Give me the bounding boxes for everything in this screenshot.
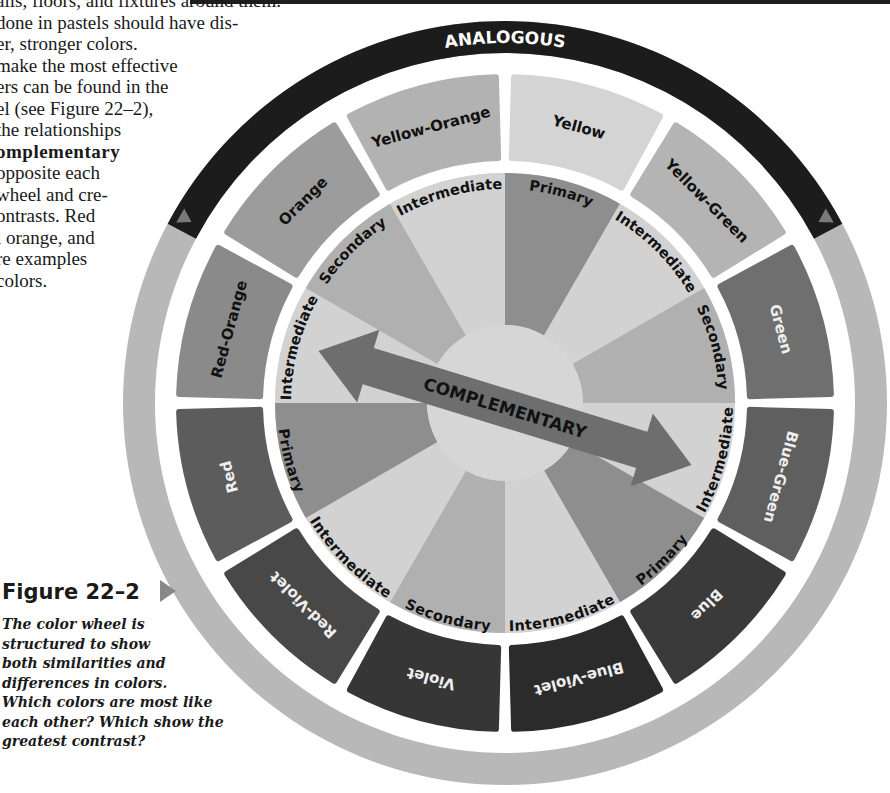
caption-line: each other? Which show the	[2, 713, 262, 733]
figure-caption: The color wheel isstructured to showboth…	[2, 615, 262, 752]
caption-line: differences in colors.	[2, 674, 262, 694]
caption-line: The color wheel is	[2, 615, 262, 635]
caption-line: greatest contrast?	[2, 732, 262, 752]
caption-line: both similarities and	[2, 654, 262, 674]
caption-line: Which colors are most like	[2, 693, 262, 713]
caption-line: structured to show	[2, 635, 262, 655]
figure-label: Figure 22–2	[2, 580, 140, 604]
figure-pointer-icon	[160, 580, 176, 602]
